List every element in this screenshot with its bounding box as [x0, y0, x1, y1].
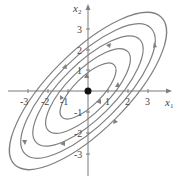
x-tick-label: -3 — [20, 96, 28, 107]
x-tick-label: 1 — [105, 96, 110, 107]
y-axis-label: x2 — [72, 2, 82, 16]
x-tick-label: 3 — [145, 96, 150, 107]
y-tick-label: 3 — [77, 24, 82, 35]
y-axis-arrow-icon — [86, 4, 91, 10]
axes: -3 -2 -1 1 2 3 3 2 1 -1 -2 -3 x1 x2 — [8, 2, 174, 176]
arrow-icon — [115, 82, 120, 87]
phase-portrait-svg: -3 -2 -1 1 2 3 3 2 1 -1 -2 -3 x1 x2 — [0, 0, 179, 185]
y-tick-label: -3 — [74, 149, 82, 160]
x-axis-arrow-icon — [166, 89, 172, 94]
y-tick-label: 1 — [77, 65, 82, 76]
x-tick-label: 2 — [125, 96, 130, 107]
arrow-icon — [62, 64, 67, 69]
x-axis-label: x1 — [164, 96, 174, 110]
y-tick-label: 2 — [77, 45, 82, 56]
y-tick-label: -1 — [74, 107, 82, 118]
phase-portrait-figure: -3 -2 -1 1 2 3 3 2 1 -1 -2 -3 x1 x2 — [0, 0, 179, 185]
y-tick-label: -2 — [74, 128, 82, 139]
x-tick-label: -1 — [60, 96, 68, 107]
arrow-icon — [22, 140, 27, 145]
x-tick-label: -2 — [41, 96, 49, 107]
equilibrium-point — [85, 88, 92, 95]
